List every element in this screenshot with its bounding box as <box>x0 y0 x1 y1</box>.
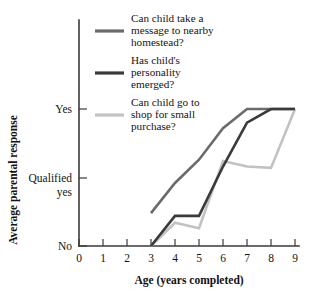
x-tick-label-3: 3 <box>148 252 154 264</box>
legend-label-0-line3: homestead? <box>131 36 184 48</box>
x-tick-label-4: 4 <box>172 252 178 264</box>
line-chart: Average parental response Yes Qualified … <box>0 0 315 299</box>
x-tick-label-6: 6 <box>220 252 226 264</box>
y-tick-label-no: No <box>58 240 72 252</box>
legend-item-2[interactable]: Can child go to shop for small purchase? <box>95 96 200 132</box>
x-tick-label-8: 8 <box>268 252 274 264</box>
x-tick-label-5: 5 <box>196 252 202 264</box>
legend: Can child take a message to nearby homes… <box>95 12 214 132</box>
y-tick-label-qualified-line1: Qualified <box>29 172 73 184</box>
legend-label-0-line1: Can child take a <box>131 12 203 24</box>
legend-label-0-line2: message to nearby <box>131 24 214 36</box>
legend-item-0[interactable]: Can child take a message to nearby homes… <box>95 12 214 48</box>
legend-label-1-line3: emerged? <box>131 78 174 90</box>
x-tick-label-7: 7 <box>244 252 250 264</box>
legend-label-2-line2: shop for small <box>131 108 195 120</box>
chart-container: Average parental response Yes Qualified … <box>0 0 315 299</box>
legend-label-1-line2: personality <box>131 66 181 78</box>
x-axis-title: Age (years completed) <box>134 274 243 287</box>
x-tick-label-9: 9 <box>292 252 298 264</box>
legend-label-2-line1: Can child go to <box>131 96 200 108</box>
x-tick-label-1: 1 <box>100 252 106 264</box>
legend-label-1-line1: Has child's <box>131 54 180 66</box>
legend-label-2-line3: purchase? <box>131 120 176 132</box>
legend-item-1[interactable]: Has child's personality emerged? <box>95 54 181 90</box>
y-axis-title: Average parental response <box>7 115 20 245</box>
y-tick-label-qualified-line2: yes <box>57 186 73 199</box>
x-tick-label-0: 0 <box>76 252 82 264</box>
x-tick-label-2: 2 <box>124 252 130 264</box>
y-tick-label-yes: Yes <box>55 103 72 115</box>
